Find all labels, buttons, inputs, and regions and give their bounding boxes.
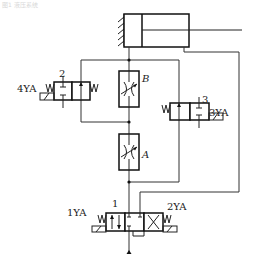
throttle-b-label: B (141, 73, 149, 84)
valve-1-left-position (106, 213, 125, 231)
throttle-valve-b: B (119, 71, 149, 107)
junction-dot (127, 58, 130, 61)
throttle-valve-a: A (119, 134, 149, 170)
valve-1-number: 1 (112, 198, 118, 209)
junction-dot (127, 120, 130, 123)
fixed-wall-hatching (118, 14, 124, 46)
hydraulic-cylinder (118, 14, 242, 47)
directional-valve-1: 1 1YA 2YA (67, 198, 187, 236)
hydraulic-circuit-diagram: B A 2 4YA (0, 0, 255, 269)
directional-valve-2: 2 4YA (17, 68, 98, 108)
solenoid-3ya-label: 3YA (209, 107, 229, 118)
solenoid-4ya-label: 4YA (17, 83, 37, 94)
throttle-a-label: A (141, 149, 149, 160)
directional-valve-3: 3 3YA (162, 94, 229, 128)
solenoid-2ya-label: 2YA (167, 201, 187, 212)
solenoid-1ya-label: 1YA (67, 207, 87, 218)
spring-icon (90, 84, 98, 92)
spring-icon (46, 84, 54, 92)
junction-dot (127, 180, 130, 183)
valve-1-center-position (125, 213, 144, 231)
valve-2-number: 2 (59, 68, 65, 79)
pump-supply-arrow-icon (127, 250, 132, 254)
spring-icon (98, 215, 106, 223)
spring-icon (162, 105, 170, 113)
spring-icon (163, 215, 171, 223)
valve-3-number: 3 (202, 94, 208, 105)
